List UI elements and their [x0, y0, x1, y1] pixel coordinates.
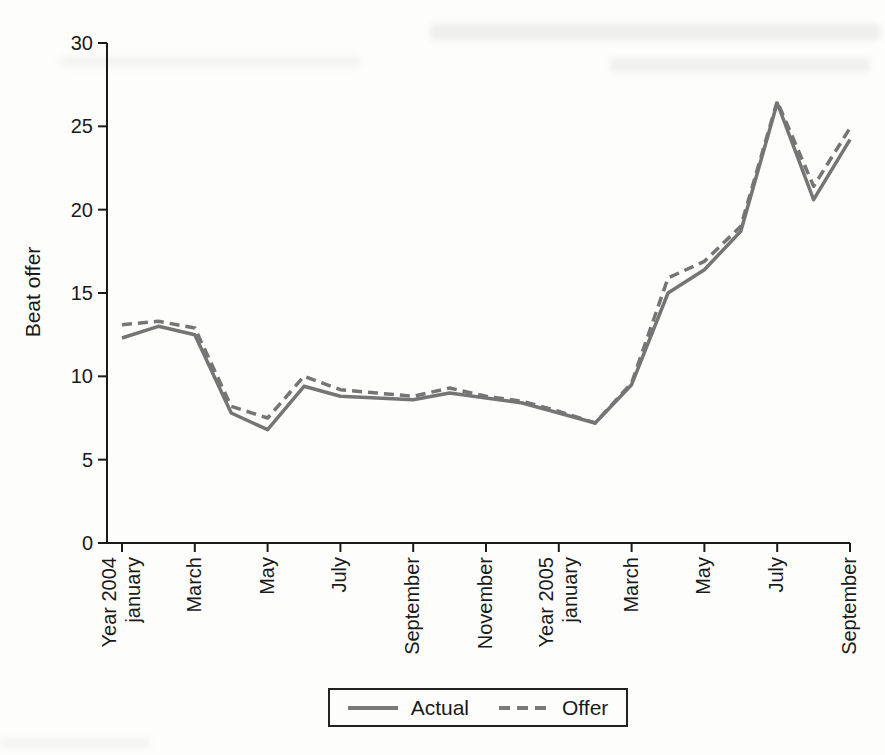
- offer-dashed-line-swatch: [499, 706, 549, 710]
- x-axis-tick-label: january: [122, 557, 144, 624]
- y-axis-tick-label: 5: [82, 449, 93, 471]
- actual-solid-line-swatch: [348, 706, 398, 710]
- x-axis-tick-label: July: [765, 557, 787, 593]
- legend-label-offer: Offer: [562, 697, 608, 718]
- axis-lines: [107, 43, 850, 543]
- y-axis-title: Beat offer: [21, 247, 44, 338]
- legend: Actual Offer: [328, 688, 628, 727]
- x-axis-tick-label: Year 2004: [98, 557, 120, 647]
- x-axis-tick-label: September: [401, 557, 423, 655]
- x-axis-tick-label: September: [838, 557, 860, 655]
- x-axis-tick-label: March: [620, 557, 642, 613]
- x-axis-tick-label: january: [559, 557, 581, 624]
- x-axis-tick-label: Year 2005: [535, 557, 557, 647]
- legend-item-actual: Actual: [348, 697, 469, 718]
- x-axis-tick-label: November: [474, 557, 496, 650]
- chart-figure: 051015202530Year 2004januaryMarchMayJuly…: [0, 0, 885, 755]
- x-axis-tick-label: July: [328, 557, 350, 593]
- y-axis-tick-label: 15: [71, 282, 93, 304]
- y-axis-tick-label: 20: [71, 199, 93, 221]
- y-axis-tick-label: 25: [71, 115, 93, 137]
- line-chart-svg: 051015202530Year 2004januaryMarchMayJuly…: [0, 0, 885, 755]
- x-axis-tick-label: May: [256, 557, 278, 595]
- y-axis-tick-label: 0: [82, 532, 93, 554]
- series-line-actual: [122, 103, 850, 430]
- x-axis-tick-label: March: [183, 557, 205, 613]
- y-axis-tick-label: 30: [71, 32, 93, 54]
- y-axis-tick-label: 10: [71, 365, 93, 387]
- legend-item-offer: Offer: [499, 697, 608, 718]
- x-axis-tick-label: May: [692, 557, 714, 595]
- legend-label-actual: Actual: [411, 697, 469, 718]
- series-line-offer: [122, 101, 850, 423]
